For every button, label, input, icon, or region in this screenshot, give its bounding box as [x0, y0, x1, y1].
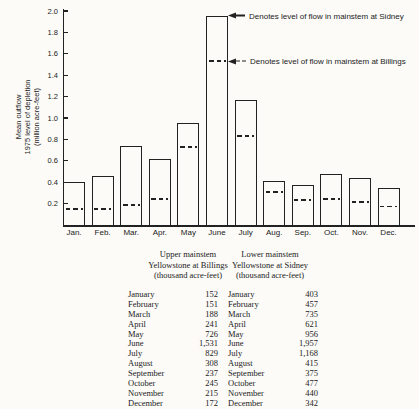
y-axis-tick-label: 1.8: [36, 28, 58, 37]
month-cell: December: [128, 399, 163, 409]
y-axis-tick-label: 1.2: [36, 92, 58, 101]
billings-level-dashed-line: [266, 191, 283, 193]
y-axis-tick: [63, 75, 68, 76]
x-axis-month-label: Apr.: [146, 228, 174, 237]
outflow-bar: [177, 123, 199, 225]
x-axis-line: [63, 225, 415, 227]
outflow-bar: [235, 100, 257, 225]
value-cell: 172: [205, 399, 218, 409]
x-axis-month-label: Mar.: [117, 228, 145, 237]
billings-level-dashed-line: [94, 208, 111, 210]
x-axis-month-label: Oct.: [317, 228, 345, 237]
value-cell: 342: [305, 399, 318, 409]
billings-level-dashed-line: [151, 198, 168, 200]
table-header-sidney: Lower mainstem Yellowstone at Sidney (th…: [218, 249, 322, 281]
monthly-flow-table: Upper mainstem Yellowstone at Billings (…: [0, 248, 419, 409]
annotation-sidney: Denotes level of flow in mainstem at Sid…: [228, 11, 404, 20]
x-axis-month-label: Dec.: [375, 228, 403, 237]
billings-level-dashed-line: [180, 146, 197, 148]
x-axis-month-label: June: [203, 228, 231, 237]
y-axis-tick: [63, 160, 68, 161]
annotation-billings-label: Denotes level of flow in mainstem at Bil…: [250, 57, 406, 66]
y-axis-tick-label: 1.0: [36, 114, 58, 123]
arrow-tail-dashed: [236, 60, 246, 62]
scanned-figure: Mean outflow 1975 level of depletion (mi…: [0, 0, 419, 409]
y-axis-tick-label: 0.4: [36, 178, 58, 187]
left-arrow-icon: [228, 58, 236, 64]
annotation-sidney-label: Denotes level of flow in mainstem at Sid…: [249, 11, 404, 20]
outflow-bar: [206, 16, 228, 225]
table-column-sidney-rows: January403February457March735April621May…: [228, 290, 318, 409]
x-axis-month-label: May: [174, 228, 202, 237]
y-axis-tick-label: 0.6: [36, 156, 58, 165]
x-axis-month-label: Aug.: [260, 228, 288, 237]
outflow-bar: [92, 176, 114, 225]
billings-level-dashed-line: [352, 201, 369, 203]
x-axis-month-label: Jan.: [60, 228, 88, 237]
billings-level-dashed-line: [237, 135, 254, 137]
y-axis-tick: [63, 53, 68, 54]
month-cell: December: [228, 399, 263, 409]
y-axis-tick: [63, 117, 68, 118]
table-row: December172: [128, 399, 218, 409]
outflow-bar: [263, 181, 285, 225]
y-axis-tick: [63, 139, 68, 140]
x-axis-month-label: Nov.: [346, 228, 374, 237]
table-column-billings-rows: January152February151March188April241May…: [128, 290, 218, 409]
table-row: December342: [228, 399, 318, 409]
billings-level-dashed-line: [380, 206, 397, 208]
arrow-tail: [236, 15, 245, 17]
billings-level-dashed-line: [209, 60, 226, 62]
x-axis-month-label: July: [232, 228, 260, 237]
billings-level-dashed-line: [294, 199, 311, 201]
y-axis-tick-label: 1.6: [36, 49, 58, 58]
outflow-bar: [63, 182, 85, 225]
y-axis-tick-label: 2.0: [36, 7, 58, 16]
y-axis-tick: [63, 32, 68, 33]
outflow-bar: [292, 185, 314, 225]
outflow-bar-chart: Mean outflow 1975 level of depletion (mi…: [0, 0, 419, 246]
y-axis-tick-label: 1.4: [36, 71, 58, 80]
annotation-billings: Denotes level of flow in mainstem at Bil…: [228, 57, 406, 66]
outflow-bar: [120, 146, 142, 225]
y-axis-tick-label: 0.8: [36, 135, 58, 144]
x-axis-month-label: Feb.: [89, 228, 117, 237]
billings-level-dashed-line: [123, 204, 140, 206]
outflow-bar: [149, 159, 171, 225]
y-axis-tick-label: 0.2: [36, 199, 58, 208]
billings-level-dashed-line: [323, 198, 340, 200]
billings-level-dashed-line: [66, 208, 83, 210]
y-axis-tick: [63, 10, 68, 11]
y-axis-tick: [63, 96, 68, 97]
left-arrow-icon: [228, 13, 236, 19]
x-axis-month-label: Sep.: [289, 228, 317, 237]
